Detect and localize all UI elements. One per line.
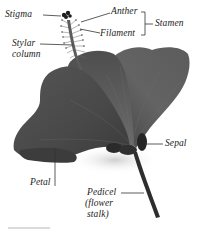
label-anther: Anther [111, 7, 137, 17]
label-pedicel-line1: Pedicel [87, 188, 116, 198]
anther-leader-line [81, 13, 110, 22]
label-pedicel-line2: (flower [85, 199, 113, 209]
label-filament: Filament [100, 29, 135, 39]
label-stylar-column-line1: Stylar [12, 39, 35, 49]
stamen-filaments [61, 20, 86, 58]
label-pedicel-line3: stalk) [87, 210, 109, 220]
label-stigma: Stigma [5, 10, 32, 20]
stamen-bracket [141, 12, 145, 35]
label-stamen: Stamen [155, 19, 184, 29]
label-stylar-column-line2: column [12, 50, 41, 60]
filament-leader-line [80, 29, 100, 33]
stigma [62, 11, 72, 19]
sepal-right [137, 133, 147, 151]
stylar-column-leader-line [40, 44, 73, 45]
label-sepal: Sepal [165, 139, 187, 149]
label-petal: Petal [30, 178, 51, 188]
stigma-leader-line [43, 15, 61, 16]
hibiscus-diagram: Stigma Anther Filament Stamen Stylar col… [0, 0, 202, 233]
